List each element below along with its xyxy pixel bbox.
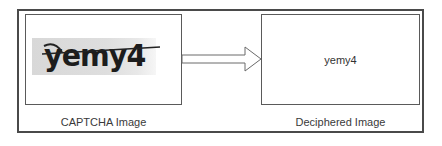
captcha-image-label: CAPTCHA Image xyxy=(25,116,182,128)
deciphered-image-label: Deciphered Image xyxy=(261,116,420,128)
deciphered-text: yemy4 xyxy=(261,54,420,66)
